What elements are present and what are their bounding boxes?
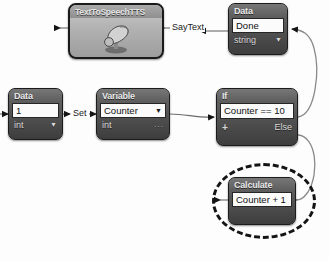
- variable-type-label: int: [102, 118, 112, 132]
- node-texttospeech-header: TextToSpeechTTS: [70, 5, 162, 18]
- data-one-value-text: 1: [16, 103, 21, 118]
- calculate-expression-text: Counter + 1: [236, 192, 286, 207]
- node-if-header: If: [217, 89, 297, 103]
- add-branch-button[interactable]: +: [222, 119, 228, 136]
- node-data-done[interactable]: Data Done string ▼: [228, 3, 288, 55]
- flow-canvas[interactable]: TextToSpeechTTS Data Done string ▼ Data …: [0, 0, 329, 261]
- chevron-down-icon[interactable]: ▼: [155, 103, 162, 118]
- calculate-expression-input[interactable]: Counter + 1: [232, 192, 292, 207]
- megaphone-icon: [70, 19, 162, 57]
- if-condition-input[interactable]: Counter == 10: [220, 103, 294, 119]
- data-done-type-select[interactable]: string ▼: [229, 33, 287, 47]
- node-calculate-header: Calculate: [229, 178, 295, 192]
- data-done-value-text: Done: [236, 18, 259, 33]
- data-one-type-label: int: [14, 118, 24, 132]
- chevron-down-icon[interactable]: ▼: [50, 118, 57, 132]
- chevron-down-icon[interactable]: ▼: [275, 33, 282, 47]
- if-branch-row[interactable]: + Else: [217, 119, 297, 136]
- node-variable-counter[interactable]: Variable Counter ▼ int ...: [96, 88, 170, 140]
- edge-label-saytext: SayText: [171, 22, 205, 32]
- calculate-footer: [229, 207, 295, 221]
- variable-overflow-button[interactable]: ...: [154, 118, 164, 132]
- wire-variable-if: [170, 114, 214, 117]
- if-else-label[interactable]: Else: [274, 119, 292, 136]
- node-calculate[interactable]: Calculate Counter + 1: [228, 177, 296, 225]
- node-data-one-header: Data: [9, 89, 62, 103]
- node-variable-header: Variable: [97, 89, 169, 103]
- data-done-type-label: string: [234, 33, 256, 47]
- node-data-one[interactable]: Data 1 int ▼: [8, 88, 63, 140]
- data-done-value-input[interactable]: Done: [232, 18, 284, 33]
- data-one-value-input[interactable]: 1: [12, 103, 59, 118]
- edge-label-set: Set: [72, 108, 88, 118]
- node-if[interactable]: If Counter == 10 + Else: [216, 88, 298, 146]
- variable-name-text: Counter: [104, 103, 138, 118]
- data-one-type-select[interactable]: int ▼: [9, 118, 62, 132]
- if-condition-text: Counter == 10: [224, 103, 285, 119]
- node-data-done-header: Data: [229, 4, 287, 18]
- variable-name-select[interactable]: Counter ▼: [100, 103, 166, 118]
- variable-type-row[interactable]: int ...: [97, 118, 169, 132]
- node-texttospeech[interactable]: TextToSpeechTTS: [68, 3, 164, 59]
